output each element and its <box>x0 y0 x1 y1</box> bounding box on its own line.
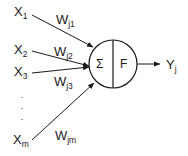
input-label-xm-sub: m <box>22 139 29 149</box>
ellipsis-dot-1: · <box>18 92 26 103</box>
input-label-x3: X3 <box>14 63 27 79</box>
input-label-x3-sub: 3 <box>23 71 28 81</box>
ellipsis-dot-3: · <box>18 114 26 125</box>
weight-label-wj1-base: W <box>56 12 68 27</box>
weight-label-wj3-base: W <box>54 74 66 89</box>
input-label-x1-sub: 1 <box>23 11 28 21</box>
input-ellipsis: · · · <box>18 92 26 125</box>
weight-label-wj1: Wj1 <box>56 11 75 27</box>
weight-label-wj2: Wj2 <box>54 43 73 59</box>
input-label-x2-sub: 2 <box>23 49 28 59</box>
input-label-x1: X1 <box>14 3 27 19</box>
summation-symbol: Σ <box>96 58 103 70</box>
weight-label-wj2-sub: j2 <box>66 51 72 61</box>
input-label-xm: Xm <box>13 131 29 147</box>
weight-label-wj3-sub: j3 <box>66 81 72 91</box>
input-label-x2-base: X <box>14 42 23 57</box>
input-label-x3-base: X <box>14 64 23 79</box>
input-label-x1-base: X <box>14 4 23 19</box>
weight-label-wjm-base: W <box>55 128 67 143</box>
neuron-diagram: X1 X2 X3 Xm · · · Wj1 Wj2 Wj3 Wjm Σ F Yj <box>0 0 188 156</box>
ellipsis-dot-2: · <box>18 103 26 114</box>
weight-label-wj1-sub: j1 <box>68 19 74 29</box>
output-label-yj: Yj <box>166 56 176 72</box>
weight-label-wjm: Wjm <box>55 127 76 143</box>
weight-label-wjm-sub: jm <box>67 135 76 145</box>
output-label-yj-base: Y <box>166 57 175 72</box>
activation-function-symbol: F <box>120 58 127 70</box>
weight-label-wj2-base: W <box>54 44 66 59</box>
input-label-xm-base: X <box>13 132 22 147</box>
input-label-x2: X2 <box>14 41 27 57</box>
weight-label-wj3: Wj3 <box>54 73 73 89</box>
